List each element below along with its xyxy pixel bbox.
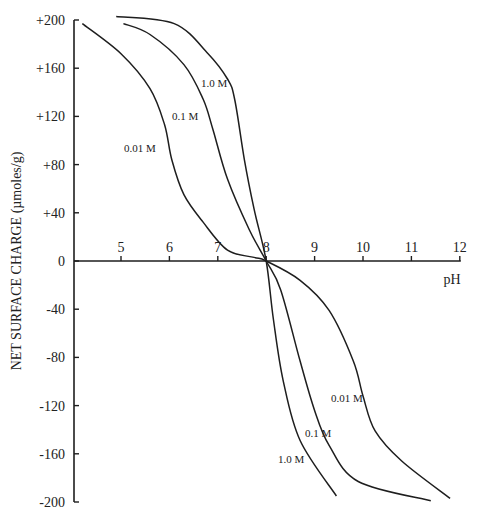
x-axis-title: pH <box>443 272 460 287</box>
y-axis-title: NET SURFACE CHARGE (µmoles/g) <box>9 151 25 370</box>
curve-0-1-m <box>123 24 430 501</box>
y-tick-label: -40 <box>46 302 65 317</box>
curve-label: 0.1 M <box>305 427 332 439</box>
x-tick-label: 6 <box>166 240 173 255</box>
x-tick-label: 7 <box>214 240 221 255</box>
y-tick-label: -200 <box>39 495 65 510</box>
y-tick-label: -80 <box>46 350 65 365</box>
y-tick-label: +200 <box>36 13 65 28</box>
x-tick-label: 11 <box>405 240 418 255</box>
curves <box>82 16 450 500</box>
surface-charge-chart: +200+160+120+80+400-40-80-120-160-200567… <box>0 0 480 518</box>
x-tick-label: 5 <box>118 240 125 255</box>
y-tick-label: +120 <box>36 109 65 124</box>
curve-label: 0.01 M <box>124 142 156 154</box>
y-tick-label: -160 <box>39 447 65 462</box>
x-tick-label: 10 <box>356 240 370 255</box>
curve-labels: 1.0 M1.0 M0.1 M0.1 M0.01 M0.01 M <box>124 77 363 465</box>
x-tick-label: 9 <box>311 240 318 255</box>
y-tick-label: 0 <box>58 254 65 269</box>
curve-label: 1.0 M <box>278 453 305 465</box>
x-tick-label: 12 <box>453 240 467 255</box>
curve-label: 0.1 M <box>172 110 199 122</box>
axes: +200+160+120+80+400-40-80-120-160-200567… <box>36 13 467 510</box>
curve-label: 1.0 M <box>201 77 228 89</box>
y-tick-label: +40 <box>43 206 65 221</box>
y-tick-label: -120 <box>39 399 65 414</box>
y-tick-label: +80 <box>43 158 65 173</box>
curve-label: 0.01 M <box>331 392 363 404</box>
y-tick-label: +160 <box>36 61 65 76</box>
